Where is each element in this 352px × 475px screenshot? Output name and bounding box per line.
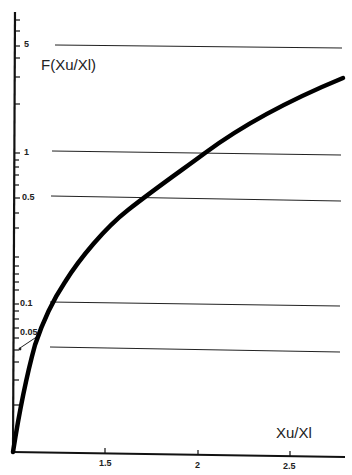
x-tick-label-2: 2 xyxy=(195,460,200,470)
ref-line-5 xyxy=(55,45,342,48)
ref-line-1 xyxy=(52,151,341,155)
y-tick-label-1: 1 xyxy=(24,147,29,157)
ref-line-0.1 xyxy=(50,302,340,306)
x-tick-label-1.5: 1.5 xyxy=(99,458,112,468)
reference-lines xyxy=(50,45,342,352)
y-axis-title: F(Xu/Xl) xyxy=(41,56,96,73)
chart: 5 1 0.5 0.1 0.05 1.5 2 2.5 F(Xu/Xl) Xu/X… xyxy=(0,0,352,475)
curve-series xyxy=(13,78,343,452)
leader-dot xyxy=(19,348,22,351)
x-tick-label-2.5: 2.5 xyxy=(283,461,296,471)
ref-line-0.05 xyxy=(50,347,340,352)
x-axis xyxy=(12,452,345,457)
x-axis-title: Xu/Xl xyxy=(276,424,312,441)
y-tick-label-5: 5 xyxy=(24,39,29,49)
y-tick-label-0.05: 0.05 xyxy=(20,327,38,337)
y-tick-label-0.1: 0.1 xyxy=(20,298,33,308)
y-axis xyxy=(13,12,15,453)
y-tick-label-0.5: 0.5 xyxy=(22,192,35,202)
ref-line-0.5 xyxy=(51,196,341,201)
